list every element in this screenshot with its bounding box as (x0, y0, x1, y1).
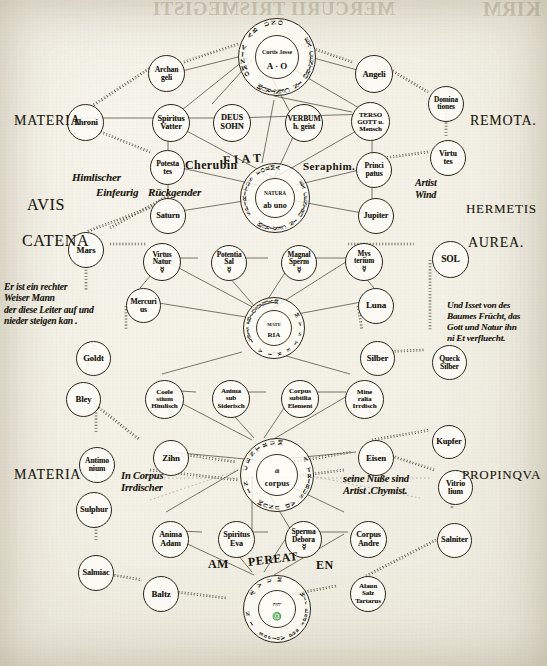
node-principatus[interactable]: Principatus (356, 152, 392, 188)
node-mercurius[interactable]: Mercurius (126, 288, 161, 323)
node-coelestium-label: CoelestiumHimlisch (151, 389, 177, 411)
node-anima-adam[interactable]: AnimaAdam (152, 521, 189, 558)
en-label: EN (316, 558, 333, 573)
node-mineralia-label: MineraliaIrrdisch (352, 389, 376, 411)
node-luna[interactable]: Luna (358, 288, 394, 324)
node-silber[interactable]: Silber (360, 341, 395, 376)
ring-in-aevum-center-big: ♎ (243, 613, 311, 622)
edge-chain-core (86, 68, 150, 110)
materia-propinqua-left: MATERIA (14, 467, 81, 483)
node-spiritus-vatter[interactable]: SpiritusVatter (152, 104, 190, 142)
catena-left: CATENA (22, 232, 89, 250)
ring-arc-char: M (273, 299, 279, 304)
node-mercurius-label: Mercurius (130, 298, 156, 313)
node-quecksilber[interactable]: QueckSilber (432, 345, 467, 380)
node-baltz-label: Baltz (151, 590, 170, 599)
ring-ex-centro-a-tribus-inner-circle (256, 454, 298, 496)
node-potestates[interactable]: Potestates (150, 150, 185, 185)
node-potestates-label: Potestates (156, 160, 179, 175)
node-corpus-andre[interactable]: CorpusAndre (350, 521, 387, 558)
note-artist-wind: ArtistWind (415, 177, 437, 201)
am-label: AM (208, 557, 229, 572)
node-virtus-naturae[interactable]: VirtusNatur☿ (143, 243, 181, 281)
ring-arc-char: A (274, 165, 280, 170)
ring-in-aevum[interactable]: IN ÆVUMWir Ende und Anfangיהוה♎ (243, 575, 311, 643)
node-salniter[interactable]: Salniter (437, 523, 472, 558)
node-dominationes[interactable]: Dominationes (428, 86, 464, 122)
node-eisen[interactable]: Eisen (358, 440, 394, 476)
node-principatus-label: Principatus (364, 162, 383, 177)
ring-arc-char: M (276, 439, 283, 446)
node-mysterium[interactable]: Mysterium☿ (345, 243, 383, 281)
node-anima-sub[interactable]: AnimasubSiderisch (212, 380, 250, 418)
node-potentia[interactable]: PotentiaSal☿ (211, 245, 247, 281)
node-corpus-subtil-label: CorpussubtiliaElement (288, 388, 313, 410)
ring-natura-ab-uno-center-small: NATURA (240, 191, 310, 197)
node-tertio[interactable]: TERSOGOTT u.Mensch (351, 102, 390, 141)
node-alaun-tartar-label: AlaunSalzTartarus (355, 583, 381, 605)
node-sperma-debora-label: SpermaDebora☿ (291, 528, 315, 551)
node-virtutes[interactable]: Virtutes (430, 140, 466, 176)
node-mineralia[interactable]: MineraliaIrrdisch (345, 380, 384, 419)
edge-chain-core (372, 430, 430, 440)
node-gold-label: Goldt (83, 354, 104, 363)
note-leiter: Er ist ein rechterWeiser Mannder diese L… (4, 281, 94, 326)
ring-arc-char: M (276, 577, 282, 583)
node-archangeli[interactable]: Archangeli (148, 55, 185, 92)
node-spiritus-vatter-label: SpiritusVatter (158, 115, 185, 132)
note-artist-chym: seine Nuße sindArtist .Chymist. (343, 473, 409, 498)
ring-lapis-philosophorum[interactable]: LAPIS PHILOSOPHORUMMYSTERIAMATERIA (243, 297, 305, 359)
node-verbum-hgeist[interactable]: VERBUMh. geist (285, 104, 323, 142)
node-kupfer-label: Kupfer (436, 438, 461, 447)
node-baltz[interactable]: Baltz (143, 576, 179, 612)
node-sulphur[interactable]: Sulphur (76, 492, 112, 528)
ring-omnia-ab-uno[interactable]: OMNIA AB UNOEX CENTRO IN CENTRUMCurtis J… (238, 18, 316, 96)
ring-arc-char: O (276, 20, 283, 26)
ring-lapis-philosophorum-center-big: RIA (243, 332, 305, 340)
ring-ex-centro-a-tribus-center-small: di (240, 468, 314, 474)
ring-natura-ab-uno[interactable]: SPIRITUS FORMAEX CENTRO IN CENTRUMNATURA… (240, 163, 310, 233)
node-silber-label: Silber (367, 354, 388, 363)
node-coelestium[interactable]: CoelestiumHimlisch (145, 380, 184, 419)
node-saturn-label: Saturn (156, 212, 180, 220)
node-kupfer[interactable]: Kupfer (432, 425, 466, 459)
node-dominationes-label: Dominationes (434, 97, 458, 112)
note-in-corpus: In CorpusIrrdischer (121, 470, 163, 495)
hermetis-right: HERMETIS (466, 201, 537, 217)
node-salmiac[interactable]: Salmiac (78, 555, 114, 591)
node-archangeli-label: Archangeli (155, 66, 179, 81)
node-antimonium[interactable]: Antimonium (79, 447, 115, 483)
node-gold[interactable]: Goldt (76, 341, 111, 376)
node-corpus-subtil[interactable]: CorpussubtiliaElement (281, 380, 319, 418)
node-anima-sub-label: AnimasubSiderisch (217, 388, 244, 410)
node-alaun-tartar[interactable]: AlaunSalzTartarus (350, 576, 386, 612)
node-deus-sohn-label: DEUSSOHN (220, 114, 243, 131)
note-einfeurig: Einfeurig (96, 186, 138, 199)
remota-right: REMOTA. (470, 113, 536, 129)
node-spiritus-eva[interactable]: SpiritusEva (218, 521, 255, 558)
node-jupiter[interactable]: Jupiter (358, 198, 394, 234)
node-quecksilber-label: QueckSilber (439, 355, 460, 370)
node-tertio-label: TERSOGOTT u.Mensch (357, 111, 383, 132)
node-anima-adam-label: AnimaAdam (159, 531, 182, 547)
node-eisen-label: Eisen (366, 454, 386, 463)
note-ruckgender: Rückgender (148, 186, 201, 199)
node-bley[interactable]: Bley (66, 382, 101, 417)
ring-in-aevum-center-small: יהוה (243, 602, 311, 608)
node-sol[interactable]: SOL (432, 241, 469, 278)
seraphim-label: Seraphim. (303, 160, 355, 172)
node-magnalia[interactable]: MagnalSperm☿ (281, 245, 317, 281)
node-virtutes-label: Virtutes (439, 150, 457, 166)
node-salniter-label: Salniter (441, 536, 468, 544)
node-sulphur-label: Sulphur (80, 506, 108, 514)
alchemical-diagram-page: MERCURII TRISMEGISTI KIRM OMNIA AB UNOEX… (0, 0, 547, 666)
node-virtus-naturae-label: VirtusNatur☿ (152, 251, 171, 274)
ring-omnia-ab-uno-center-big: A · O (238, 62, 316, 72)
edge-solid (262, 100, 274, 163)
ring-ex-centro-a-tribus[interactable]: IN CENTRUMA TRIBUS AD UNUMdicorpus (240, 438, 314, 512)
node-verbum-hgeist-label: VERBUMh. geist (287, 115, 320, 130)
node-deus-sohn[interactable]: DEUSSOHN (213, 104, 251, 142)
node-corpus-andre-label: CorpusAndre (356, 531, 381, 547)
node-saturn[interactable]: Saturn (150, 198, 186, 234)
node-angeli[interactable]: Angeli (355, 55, 393, 93)
